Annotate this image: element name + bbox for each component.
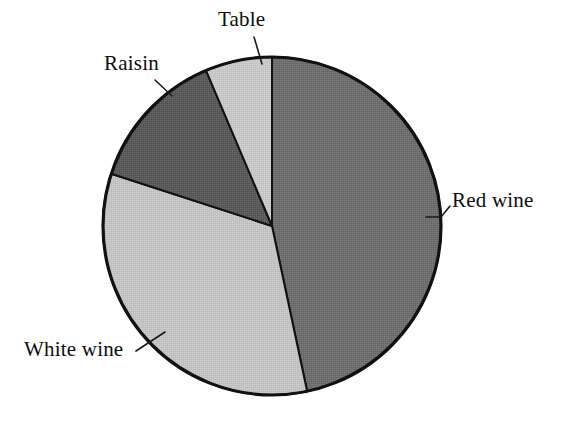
pie-label-raisin: Raisin (104, 52, 159, 75)
pie-label-table: Table (218, 8, 265, 31)
pie-chart-figure: Red wine White wine Raisin Table (0, 0, 569, 422)
leader-line-raisin (155, 80, 172, 96)
pie-label-red-wine: Red wine (452, 189, 534, 212)
leader-line-red-wine (441, 206, 450, 217)
pie-label-white-wine: White wine (24, 338, 123, 361)
